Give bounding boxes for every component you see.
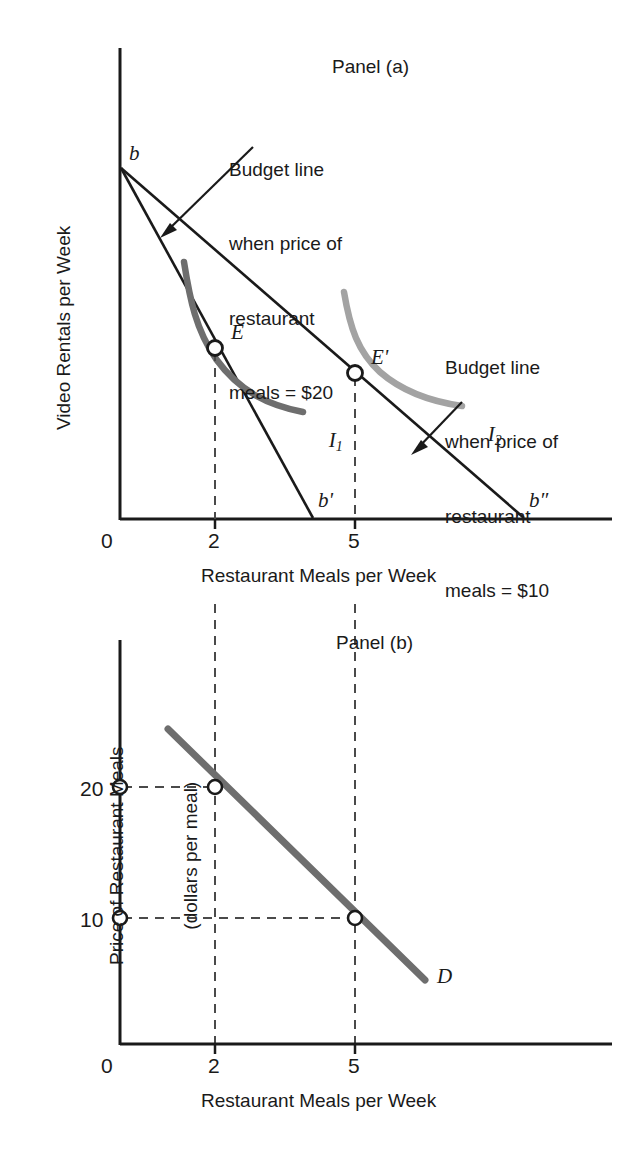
panel-b-title: Panel (b) <box>336 631 413 656</box>
economics-figure: Panel (a) Budget line when price of rest… <box>0 0 639 1162</box>
panel-b-origin-label: 0 <box>101 1052 113 1079</box>
budget-line-20-annotation-line-2: when price of <box>229 232 342 257</box>
budget-line-20-annotation-line-4: meals = $20 <box>229 381 342 406</box>
label-b-prime: b' <box>318 487 333 514</box>
panel-a-origin-label: 0 <box>101 527 113 554</box>
panel-a-x-axis-label: Restaurant Meals per Week <box>201 564 436 589</box>
label-b: b <box>129 140 140 167</box>
panel-b-xtick-label-2: 2 <box>208 1052 220 1079</box>
panel-a-title: Panel (a) <box>332 55 409 80</box>
label-demand-curve: D <box>437 963 452 990</box>
panel-b-y-axis-label-line-1: Price of Restaurant Meals <box>105 746 130 965</box>
panel-a-xtick-label-5: 5 <box>348 527 360 554</box>
budget-line-20-annotation-line-3: restaurant <box>229 307 342 332</box>
label-indifference-curve-1: I1 <box>311 406 343 477</box>
budget-line-10-annotation: Budget line when price of restaurant mea… <box>445 307 558 653</box>
budget-line-20-annotation-line-1: Budget line <box>229 158 342 183</box>
label-e: E <box>231 319 244 346</box>
budget-line-10-annotation-line-4: meals = $10 <box>445 579 558 604</box>
panel-b-xtick-label-5: 5 <box>348 1052 360 1079</box>
label-indifference-curve-1-subscript: 1 <box>336 439 343 454</box>
panel-b-y-axis-label-line-2: (dollars per meal) <box>179 746 204 965</box>
point-e-prime-marker <box>348 366 363 381</box>
budget-line-20-annotation: Budget line when price of restaurant mea… <box>229 109 342 455</box>
label-b-double-prime: b″ <box>529 487 548 514</box>
label-indifference-curve-1-letter: I <box>329 428 336 452</box>
label-indifference-curve-2-subscript: 2 <box>495 433 502 448</box>
point-e-marker <box>208 341 223 356</box>
panel-a-y-axis-label: Video Rentals per Week <box>52 226 77 430</box>
label-e-prime: E' <box>371 344 388 371</box>
panel-b-y-axis-label: Price of Restaurant Meals (dollars per m… <box>56 746 254 965</box>
demand-point-q5-p10 <box>348 911 362 925</box>
panel-b-x-axis-label: Restaurant Meals per Week <box>201 1089 436 1114</box>
panel-a-xtick-label-2: 2 <box>208 527 220 554</box>
label-indifference-curve-2-letter: I <box>488 422 495 446</box>
budget-line-10-annotation-line-1: Budget line <box>445 356 558 381</box>
label-indifference-curve-2: I2 <box>470 400 502 471</box>
